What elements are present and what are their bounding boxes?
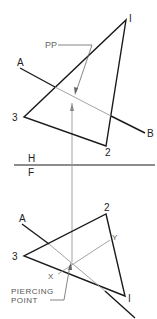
label-x: X [48, 272, 54, 281]
top-line-ab-hidden [55, 87, 111, 116]
label-vertex-3-top: 3 [12, 112, 18, 123]
piercing-point-diagram: H F A B I 2 3 PP X Y A I 2 3 PIERCING PO… [0, 0, 157, 319]
front-line-a-outside [22, 224, 49, 244]
cutting-line-xy [58, 240, 110, 274]
arrow-up-icon [70, 103, 74, 111]
label-a-top: A [17, 57, 24, 68]
label-vertex-1-front: I [128, 293, 131, 304]
label-h: H [28, 153, 35, 164]
label-vertex-3-front: 3 [12, 251, 18, 262]
label-pp: PP [45, 40, 57, 50]
top-view-plane [24, 20, 126, 146]
label-point: POINT [11, 296, 38, 305]
label-a-front: A [19, 213, 26, 224]
top-line-ab-outside-b [111, 116, 145, 133]
label-b-top: B [147, 128, 154, 139]
label-vertex-1-top: I [129, 13, 132, 24]
front-view-plane [24, 214, 125, 296]
pp-arrow-icon [74, 87, 78, 95]
label-y: Y [112, 233, 118, 242]
front-line-a-hidden [49, 244, 105, 291]
top-line-ab-outside-a [20, 68, 55, 87]
label-f: F [28, 167, 34, 178]
label-piercing: PIERCING [11, 287, 54, 296]
label-vertex-2-top: 2 [105, 147, 111, 158]
label-vertex-2-front: 2 [104, 202, 110, 213]
